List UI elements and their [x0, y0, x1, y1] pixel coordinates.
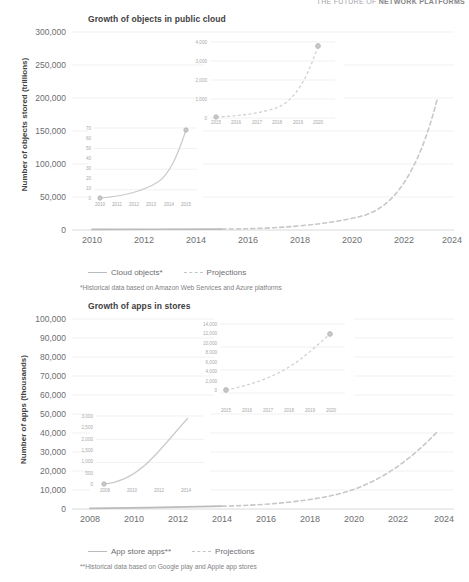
- chart2-inset-projection: 14,000 12,000 10,000 8,000 6,000 4,000 2…: [220, 324, 345, 406]
- chart1-ytick-3: 150,000: [35, 126, 66, 136]
- chart1-title: Growth of objects in public cloud: [88, 14, 226, 24]
- chart2-inset2-xtick-3: 2018: [284, 408, 294, 413]
- chart2-inset2-ytick-4: 8,000: [206, 350, 218, 355]
- chart1-inset2-xtick-3: 2018: [272, 120, 282, 125]
- chart2-y-axis-title: Number of apps (thousands): [19, 325, 28, 495]
- chart1-inset2-ytick-0: 0: [204, 116, 207, 121]
- chart1-inset-projection-canvas: [210, 42, 335, 118]
- chart2-xtick-4: 2016: [256, 514, 276, 524]
- chart2-inset2-ytick-2: 4,000: [206, 369, 218, 374]
- chart1-inset1-xtick-1: 2011: [112, 202, 122, 207]
- chart2-xtick-8: 2024: [434, 514, 454, 524]
- chart2-inset1-xtick-0: 2008: [100, 488, 110, 493]
- chart1-inset1-xtick-4: 2014: [164, 202, 174, 207]
- chart2-legend-item-solid: App store apps**: [88, 547, 171, 556]
- chart2-ytick-0: 0: [61, 504, 66, 514]
- chart2-xtick-1: 2010: [124, 514, 144, 524]
- chart1-inset1-ytick-5: 50: [86, 146, 91, 151]
- chart2-xtick-5: 2018: [300, 514, 320, 524]
- chart2-inset-historical-canvas: [96, 416, 204, 486]
- chart2-title: Growth of apps in stores: [88, 301, 191, 311]
- chart1-legend-item-dashed: Projections: [184, 268, 247, 277]
- chart1-inset2-xtick-5: 2020: [313, 120, 323, 125]
- chart2-xtick-6: 2020: [344, 514, 364, 524]
- chart1-ytick-0: 0: [61, 225, 66, 235]
- chart1-xtick-3: 2016: [238, 235, 258, 245]
- chart2-inset1-ytick-3: 1,500: [82, 448, 94, 453]
- chart2-legend-solid-label: App store apps**: [111, 547, 171, 556]
- chart1-xtick-4: 2018: [290, 235, 310, 245]
- page-banner: THE FUTURE OF NETWORK PLATFORMS: [317, 0, 465, 5]
- banner-prefix: THE FUTURE OF: [317, 0, 379, 5]
- chart1-ytick-1: 50,000: [40, 192, 66, 202]
- chart2-footnote: **Historical data based on Google play a…: [80, 563, 257, 570]
- chart2-xtick-7: 2022: [388, 514, 408, 524]
- chart1-inset2-ytick-3: 3,000: [196, 59, 208, 64]
- chart2-inset2-xtick-4: 2019: [305, 408, 315, 413]
- chart1-inset-historical: 70 60 50 40 30 20 10 0 2010 2011 2012 20…: [94, 128, 197, 200]
- solid-line-icon: [88, 272, 107, 273]
- chart1-inset2-xtick-1: 2016: [231, 120, 241, 125]
- chart1-inset1-xtick-2: 2012: [129, 202, 139, 207]
- chart2-inset2-xtick-1: 2016: [242, 408, 252, 413]
- dashed-line-icon: [184, 272, 203, 273]
- chart2-inset1-ytick-0: 0: [90, 482, 93, 487]
- chart2-ytick-4: 40,000: [40, 428, 66, 438]
- chart2-legend-item-dashed: Projections: [192, 547, 255, 556]
- chart2-inset1-ytick-6: 3,000: [82, 414, 94, 419]
- chart-objects-public-cloud: Growth of objects in public cloud Number…: [0, 10, 469, 295]
- chart1-xtick-1: 2012: [134, 235, 154, 245]
- chart1-legend-item-solid: Cloud objects*: [88, 268, 163, 277]
- chart2-inset2-ytick-0: 0: [214, 388, 217, 393]
- chart1-y-axis-title: Number of objects stored (trillions): [20, 35, 29, 215]
- chart2-inset2-ytick-6: 12,000: [203, 331, 217, 336]
- chart1-inset1-ytick-4: 40: [86, 156, 91, 161]
- chart1-inset-projection: 4,000 3,000 2,000 1,000 0 2015 2016 2017…: [210, 42, 335, 118]
- chart2-ytick-1: 10,000: [40, 485, 66, 495]
- chart1-xtick-2: 2014: [186, 235, 206, 245]
- chart2-xtick-2: 2012: [168, 514, 188, 524]
- chart1-inset1-ytick-7: 70: [86, 126, 91, 131]
- chart1-ytick-5: 250,000: [35, 60, 66, 70]
- chart2-inset1-ytick-1: 500: [85, 470, 93, 475]
- chart1-ytick-4: 200,000: [35, 93, 66, 103]
- chart2-ytick-6: 60,000: [40, 390, 66, 400]
- chart2-xtick-0: 2008: [80, 514, 100, 524]
- chart1-legend: Cloud objects* Projections: [88, 268, 260, 277]
- banner-title: NETWORK PLATFORMS: [379, 0, 465, 5]
- chart1-inset1-xtick-5: 2015: [181, 202, 191, 207]
- chart2-inset-projection-canvas: [220, 324, 345, 406]
- chart2-inset1-ytick-4: 2,000: [82, 436, 94, 441]
- chart1-inset1-ytick-0: 0: [88, 196, 91, 201]
- chart1-inset2-ytick-1: 1,000: [196, 97, 208, 102]
- chart2-ytick-2: 20,000: [40, 466, 66, 476]
- chart1-inset1-ytick-3: 30: [86, 166, 91, 171]
- solid-line-icon: [88, 551, 107, 552]
- chart2-inset2-xtick-0: 2015: [221, 408, 231, 413]
- chart1-inset1-xtick-0: 2010: [95, 202, 105, 207]
- chart1-inset2-xtick-0: 2015: [211, 120, 221, 125]
- chart2-ytick-10: 100,000: [35, 314, 66, 324]
- chart2-xtick-3: 2014: [212, 514, 232, 524]
- infographic-page: THE FUTURE OF NETWORK PLATFORMS Growth o…: [0, 0, 469, 582]
- chart2-plot-area: 100,000 90,000 80,000 70,000 60,000 50,0…: [72, 319, 454, 509]
- chart1-ytick-6: 300,000: [35, 27, 66, 37]
- chart2-inset2-ytick-3: 6,000: [206, 359, 218, 364]
- chart1-inset2-xtick-2: 2017: [252, 120, 262, 125]
- chart2-inset2-ytick-5: 10,000: [203, 340, 217, 345]
- chart2-inset1-xtick-3: 2014: [181, 488, 191, 493]
- chart1-xtick-5: 2020: [342, 235, 362, 245]
- chart1-inset1-xtick-3: 2013: [146, 202, 156, 207]
- dashed-line-icon: [192, 551, 211, 552]
- chart1-legend-dashed-label: Projections: [207, 268, 247, 277]
- chart2-ytick-5: 50,000: [40, 409, 66, 419]
- chart1-xtick-6: 2022: [394, 235, 414, 245]
- chart1-xtick-7: 2024: [442, 235, 462, 245]
- chart2-ytick-7: 70,000: [40, 371, 66, 381]
- chart2-inset2-xtick-5: 2020: [326, 408, 336, 413]
- chart2-inset2-ytick-7: 14,000: [203, 322, 217, 327]
- chart-apps-in-stores: Growth of apps in stores Number of apps …: [0, 297, 469, 582]
- chart2-ytick-3: 30,000: [40, 447, 66, 457]
- chart2-legend-dashed-label: Projections: [215, 547, 255, 556]
- chart2-inset1-ytick-2: 1,000: [82, 459, 94, 464]
